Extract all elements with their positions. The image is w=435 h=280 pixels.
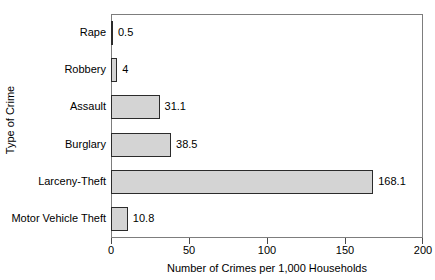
category-label-motor-vehicle-theft: Motor Vehicle Theft <box>11 213 106 224</box>
category-label-robbery: Robbery <box>64 64 106 75</box>
bar-burglary <box>111 133 171 157</box>
category-label-list: RapeRobberyAssaultBurglaryLarceny-TheftM… <box>14 14 110 238</box>
bar-assault <box>111 95 160 119</box>
bar-motor-vehicle-theft <box>111 207 128 231</box>
category-label-larceny-theft: Larceny-Theft <box>38 176 106 187</box>
bar-value-larceny-theft: 168.1 <box>378 176 406 187</box>
bar-value-motor-vehicle-theft: 10.8 <box>133 213 154 224</box>
bar-chart: Type of Crime RapeRobberyAssaultBurglary… <box>0 0 435 280</box>
bar-robbery <box>111 58 117 82</box>
category-label-assault: Assault <box>70 101 106 112</box>
bar-value-burglary: 38.5 <box>176 139 197 150</box>
x-axis-title: Number of Crimes per 1,000 Households <box>111 262 423 274</box>
x-tick-label-150: 150 <box>336 245 354 256</box>
category-label-rape: Rape <box>80 27 106 38</box>
bars-layer: 0.5431.138.5168.110.8 <box>111 14 423 238</box>
category-label-burglary: Burglary <box>65 139 106 150</box>
x-tick-label-100: 100 <box>258 245 276 256</box>
bar-rape <box>111 21 113 45</box>
bar-value-assault: 31.1 <box>165 101 186 112</box>
bar-value-rape: 0.5 <box>118 27 133 38</box>
bar-larceny-theft <box>111 170 373 194</box>
x-tick-label-50: 50 <box>183 245 195 256</box>
x-tick-label-200: 200 <box>414 245 432 256</box>
x-axis-ticks: 050100150200 <box>111 238 423 260</box>
bar-value-robbery: 4 <box>122 64 128 75</box>
x-tick-label-0: 0 <box>108 245 114 256</box>
